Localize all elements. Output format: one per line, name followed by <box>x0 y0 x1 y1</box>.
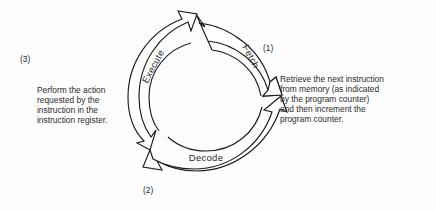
callout-execute: (3) Perform the action requested by the … <box>20 54 107 146</box>
inner-ring-edge-decode <box>168 107 262 151</box>
callout-execute-number: (3) <box>20 54 30 64</box>
machine-cycle-figure: Fetch Decode Execute (3) Perform the act… <box>0 0 436 210</box>
callout-decode: (2) Decode the bit pattern in the instru… <box>143 185 253 210</box>
callout-execute-text: Perform the action requested by the inst… <box>37 85 107 126</box>
callout-fetch-text: Retrieve the next instruction from memor… <box>280 74 384 125</box>
execute-arrow-shape <box>128 11 197 150</box>
phase-label-fetch: Fetch <box>240 43 262 70</box>
callout-fetch: (1) Retrieve the next instruction from m… <box>263 43 384 145</box>
callout-fetch-number: (1) <box>263 43 273 53</box>
callout-decode-number: (2) <box>143 185 153 195</box>
phase-label-decode: Decode <box>189 152 224 163</box>
